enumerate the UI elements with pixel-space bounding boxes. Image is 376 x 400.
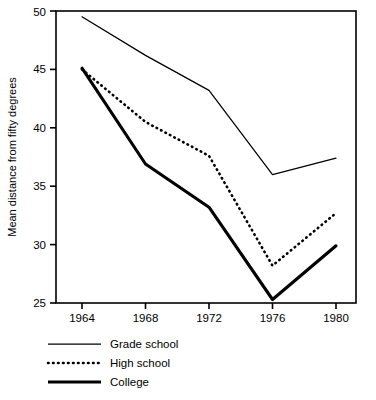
- series-line-grade-school: [82, 17, 336, 175]
- x-tick-label-1968: 1968: [133, 312, 159, 324]
- y-axis-title: Mean distance from fifty degrees: [6, 77, 18, 237]
- y-tick-label-30: 30: [33, 239, 46, 251]
- y-tick-label-50: 50: [33, 6, 46, 18]
- legend-label-grade-school: Grade school: [110, 338, 178, 350]
- x-tick-label-1980: 1980: [323, 312, 349, 324]
- chart-figure: 25 30 35 40 45 50 1964 1968 1972 1976 19…: [0, 0, 376, 400]
- series-lines: [82, 17, 336, 300]
- y-tick-label-25: 25: [33, 297, 46, 309]
- x-axis-tick-labels: 1964 1968 1972 1976 1980: [69, 312, 349, 324]
- legend-label-high-school: High school: [110, 357, 170, 369]
- line-chart: 25 30 35 40 45 50 1964 1968 1972 1976 19…: [0, 0, 376, 400]
- y-tick-label-40: 40: [33, 122, 46, 134]
- chart-legend: Grade school High school College: [48, 338, 178, 388]
- x-tick-label-1972: 1972: [196, 312, 222, 324]
- series-line-college: [82, 68, 336, 299]
- legend-label-college: College: [110, 376, 149, 388]
- y-axis-ticks: [50, 11, 56, 303]
- x-axis-ticks: [82, 303, 336, 309]
- x-tick-label-1964: 1964: [69, 312, 95, 324]
- x-tick-label-1976: 1976: [260, 312, 286, 324]
- plot-border: [56, 11, 356, 303]
- y-tick-label-35: 35: [33, 180, 46, 192]
- y-axis-tick-labels: 25 30 35 40 45 50: [33, 6, 46, 309]
- plot-frame: [56, 11, 356, 303]
- y-tick-label-45: 45: [33, 63, 46, 75]
